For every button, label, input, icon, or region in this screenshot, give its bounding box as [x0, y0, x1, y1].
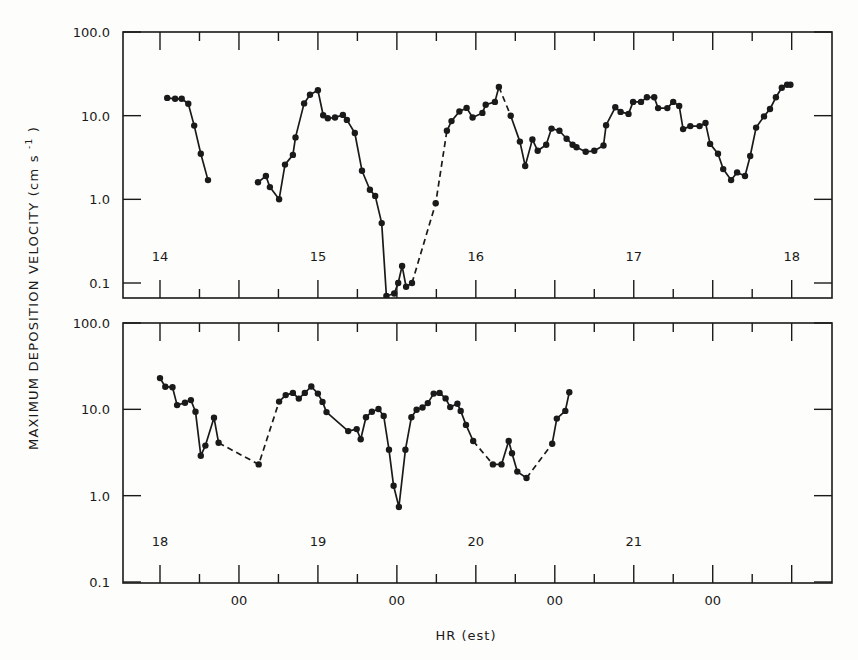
data-point — [290, 152, 296, 158]
data-point — [761, 113, 767, 119]
data-point — [381, 413, 387, 419]
data-point — [742, 173, 748, 179]
data-point — [483, 102, 489, 108]
solid-segment — [447, 87, 499, 131]
data-point — [562, 408, 568, 414]
data-point — [456, 108, 462, 114]
data-point — [205, 177, 211, 183]
data-point — [529, 136, 535, 142]
data-point — [164, 95, 170, 101]
data-series — [164, 82, 794, 300]
y-axis-label-exponent: -1 — [24, 138, 34, 149]
data-point — [396, 504, 402, 510]
solid-segment — [493, 441, 527, 478]
data-point — [680, 126, 686, 132]
data-point — [301, 100, 307, 106]
data-point — [345, 428, 351, 434]
data-point — [676, 103, 682, 109]
data-point — [651, 94, 657, 100]
data-point — [255, 179, 261, 185]
data-point — [386, 447, 392, 453]
midnight-label: 00 — [704, 593, 721, 608]
data-point — [191, 122, 197, 128]
data-point — [436, 390, 442, 396]
data-point — [352, 130, 358, 136]
data-point — [372, 193, 378, 199]
data-point — [514, 468, 520, 474]
dashed-segment — [219, 402, 280, 465]
data-point — [162, 384, 168, 390]
y-axis-label-main: MAXIMUM DEPOSITION VELOCITY (cm s — [26, 154, 41, 450]
data-point — [182, 400, 188, 406]
y-axis-label: MAXIMUM DEPOSITION VELOCITY (cm s -1 ) — [20, 126, 41, 450]
data-point — [728, 177, 734, 183]
solid-segment — [511, 85, 791, 180]
day-label: 17 — [625, 249, 642, 264]
solid-segment — [160, 378, 219, 456]
day-label: 21 — [625, 534, 642, 549]
data-point — [379, 220, 385, 226]
data-point — [340, 112, 346, 118]
day-label: 14 — [152, 249, 169, 264]
data-point — [375, 406, 381, 412]
day-label: 15 — [310, 249, 327, 264]
solid-segment — [258, 90, 412, 296]
data-point — [630, 99, 636, 105]
data-point — [506, 438, 512, 444]
data-series — [157, 375, 573, 510]
data-point — [267, 184, 273, 190]
data-point — [179, 96, 185, 102]
data-point — [403, 284, 409, 290]
y-tick-label: 100.0 — [73, 316, 110, 331]
data-point — [323, 409, 329, 415]
data-point — [198, 151, 204, 157]
data-point — [702, 120, 708, 126]
data-point — [169, 384, 175, 390]
data-point — [354, 426, 360, 432]
data-point — [399, 263, 405, 269]
data-point — [408, 414, 414, 420]
data-point — [670, 99, 676, 105]
y-tick-label: 0.1 — [89, 575, 110, 590]
data-point — [332, 114, 338, 120]
data-point — [600, 142, 606, 148]
data-point — [425, 400, 431, 406]
solid-segment — [279, 387, 473, 508]
data-point — [192, 409, 198, 415]
deposition-velocity-chart: 100.010.01.00.11415161718 100.010.01.00.… — [0, 0, 858, 660]
data-point — [282, 161, 288, 167]
data-point — [549, 441, 555, 447]
data-point — [696, 123, 702, 129]
data-point — [591, 148, 597, 154]
data-point — [276, 398, 282, 404]
data-point — [563, 136, 569, 142]
data-point — [556, 128, 562, 134]
data-point — [308, 383, 314, 389]
data-point — [344, 117, 350, 123]
data-point — [256, 461, 262, 467]
day-label: 16 — [468, 249, 485, 264]
data-point — [448, 118, 454, 124]
data-point — [469, 114, 475, 120]
data-point — [390, 483, 396, 489]
data-point — [508, 113, 514, 119]
data-point — [290, 390, 296, 396]
top-panel: 100.010.01.00.11415161718 — [73, 25, 832, 299]
data-point — [470, 438, 476, 444]
data-point — [509, 450, 515, 456]
data-point — [172, 96, 178, 102]
data-point — [276, 196, 282, 202]
data-point — [215, 440, 221, 446]
dashed-segment — [499, 87, 511, 116]
data-point — [573, 144, 579, 150]
data-point — [319, 399, 325, 405]
data-point — [444, 128, 450, 134]
data-point — [185, 101, 191, 107]
data-point — [655, 105, 661, 111]
data-point — [617, 109, 623, 115]
data-point — [402, 447, 408, 453]
solid-segment — [167, 98, 208, 180]
data-point — [325, 115, 331, 121]
data-point — [490, 461, 496, 467]
x-axis-label: HR (est) — [436, 628, 497, 643]
